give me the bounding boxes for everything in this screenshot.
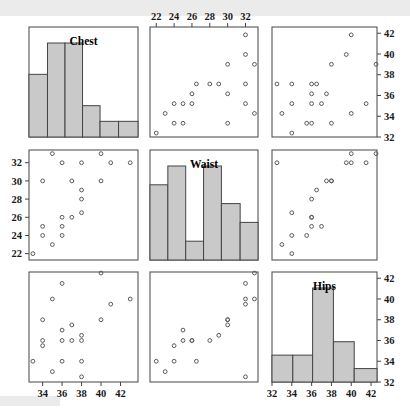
panel-frame: [272, 27, 377, 137]
histogram-bar: [29, 74, 47, 137]
panel-frame: [150, 27, 258, 137]
tick-label: 22: [151, 11, 162, 22]
tick-label: 42: [384, 273, 395, 284]
histogram-bar: [150, 185, 168, 260]
panel-hips-vs-chest: [29, 271, 138, 382]
axis-waist-left: 222426283032: [12, 157, 30, 259]
tick-label: 40: [384, 49, 395, 60]
panel-frame: [150, 272, 258, 382]
diagonal-label-hips: Hips: [313, 280, 337, 293]
page-artifact-1: [0, 396, 60, 406]
tick-label: 28: [12, 194, 23, 205]
tick-label: 40: [384, 294, 395, 305]
histogram-bar: [221, 204, 240, 260]
scatterplot-matrix: ChestWaistHips22242628303232343638404222…: [0, 0, 410, 412]
panel-chest-vs-chest: Chest: [29, 27, 138, 137]
panel-chest-vs-waist: [150, 27, 258, 137]
tick-label: 38: [384, 69, 395, 80]
tick-label: 30: [222, 11, 233, 22]
panel-chest-vs-hips: [272, 27, 378, 137]
tick-label: 22: [12, 248, 23, 259]
tick-label: 36: [306, 388, 317, 399]
histogram-bar: [333, 342, 354, 382]
histogram-bar: [272, 355, 293, 382]
panel-waist-vs-waist: Waist: [150, 150, 258, 260]
tick-label: 26: [187, 11, 198, 22]
tick-label: 34: [37, 388, 48, 399]
histogram-bar: [100, 121, 118, 137]
tick-label: 34: [384, 111, 395, 122]
panel-hips-vs-waist: [150, 271, 258, 382]
tick-label: 40: [96, 388, 107, 399]
tick-label: 38: [326, 388, 337, 399]
tick-label: 24: [12, 230, 23, 241]
histogram-bar: [354, 369, 377, 382]
histogram-bar: [204, 166, 222, 260]
tick-label: 42: [366, 388, 377, 399]
histogram-bar: [293, 355, 313, 382]
axis-hips-right: 323436384042: [377, 28, 395, 143]
histogram-bar: [65, 43, 83, 137]
tick-label: 32: [267, 388, 278, 399]
panel-waist-vs-hips: [272, 150, 378, 260]
histogram-bar: [186, 241, 204, 260]
tick-label: 36: [57, 388, 68, 399]
tick-label: 26: [12, 212, 23, 223]
tick-label: 32: [12, 157, 23, 168]
panel-frame: [29, 272, 138, 382]
histogram-bar: [168, 166, 186, 260]
tick-label: 38: [384, 314, 395, 325]
axis-hips-right: 323436384042: [377, 273, 395, 388]
tick-label: 28: [205, 11, 216, 22]
panel-frame: [272, 150, 377, 260]
diagonal-label-chest: Chest: [69, 35, 97, 47]
tick-label: 40: [346, 388, 357, 399]
diagonal-label-waist: Waist: [190, 158, 218, 170]
axis-hips-bottom: 323436384042: [267, 382, 377, 399]
tick-label: 42: [115, 388, 126, 399]
tick-label: 34: [287, 388, 298, 399]
tick-label: 36: [384, 335, 395, 346]
tick-label: 42: [384, 28, 395, 39]
histogram-bar: [119, 121, 138, 137]
tick-label: 32: [240, 11, 251, 22]
tick-label: 32: [384, 132, 395, 143]
tick-label: 34: [384, 356, 395, 367]
panel-hips-vs-hips: Hips: [272, 272, 377, 382]
histogram-bar: [240, 222, 258, 260]
histogram-bar: [83, 106, 101, 137]
tick-label: 38: [76, 388, 87, 399]
panel-frame: [29, 150, 138, 260]
panel-waist-vs-chest: [29, 150, 138, 260]
histogram-bar: [313, 288, 334, 382]
tick-label: 24: [169, 11, 180, 22]
histogram-bar: [47, 43, 65, 137]
tick-label: 36: [384, 90, 395, 101]
tick-label: 32: [384, 377, 395, 388]
tick-label: 30: [12, 176, 23, 187]
